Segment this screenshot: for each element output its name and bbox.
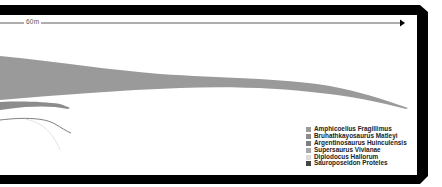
scale-arrowhead: [400, 20, 405, 27]
scale-label: 60m: [24, 18, 41, 25]
silhouette-thin-1: [0, 118, 71, 133]
legend-item: Sauroposeidon Proteles: [306, 160, 407, 167]
silhouette-second: [0, 102, 70, 110]
legend-swatch: [306, 155, 311, 160]
legend-swatch: [306, 161, 311, 166]
legend-label: Sauroposeidon Proteles: [314, 160, 388, 167]
legend-swatch: [306, 127, 311, 132]
silhouette-amphicoelius: [0, 56, 408, 109]
legend-swatch: [306, 134, 311, 139]
legend-swatch: [306, 141, 311, 146]
legend: Amphicoelius Fragillimus Bruhathkayosaur…: [306, 126, 407, 167]
legend-swatch: [306, 148, 311, 153]
